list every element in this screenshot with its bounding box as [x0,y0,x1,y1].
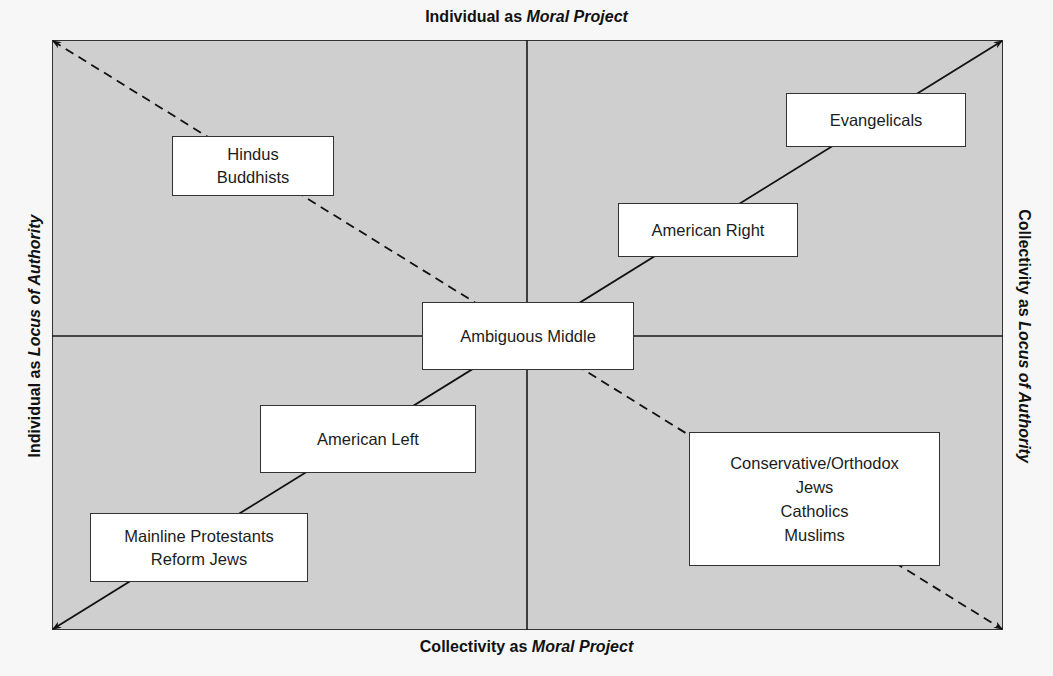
box-hindus-buddhists: Hindus Buddhists [172,136,334,196]
box-line: Reform Jews [151,548,247,571]
box-line: Mainline Protestants [124,525,274,548]
box-american-left: American Left [260,405,476,473]
right-axis-emphasis: Locus of Authority [1016,321,1033,463]
box-line: Ambiguous Middle [460,325,596,348]
right-axis-label: Collectivity as Locus of Authority [1015,209,1033,463]
box-line: Buddhists [217,166,289,189]
box-line: Evangelicals [830,109,923,132]
top-axis-prefix: Individual as [425,8,526,25]
bottom-axis-emphasis: Moral Project [532,638,633,655]
box-line: Conservative/Orthodox [730,451,899,475]
bottom-axis-label: Collectivity as Moral Project [0,638,1053,656]
box-line: Hindus [227,143,278,166]
top-axis-label: Individual as Moral Project [0,8,1053,26]
box-line: American Left [317,428,419,451]
box-line: Jews [796,475,834,499]
box-evangelicals: Evangelicals [786,93,966,147]
box-conservative-orthodox: Conservative/Orthodox Jews Catholics Mus… [689,432,940,566]
top-axis-emphasis: Moral Project [527,8,628,25]
bottom-axis-prefix: Collectivity as [420,638,532,655]
box-american-right: American Right [618,203,798,257]
box-line: Catholics [781,499,849,523]
box-line: American Right [652,219,765,242]
left-axis-emphasis: Locus of Authority [26,215,43,357]
box-line: Muslims [784,523,845,547]
left-axis-prefix: Individual as [26,356,43,457]
box-mainline-reform: Mainline Protestants Reform Jews [90,513,308,582]
box-ambiguous-middle: Ambiguous Middle [422,302,634,370]
left-axis-label: Individual as Locus of Authority [26,215,44,458]
right-axis-prefix: Collectivity as [1016,209,1033,321]
